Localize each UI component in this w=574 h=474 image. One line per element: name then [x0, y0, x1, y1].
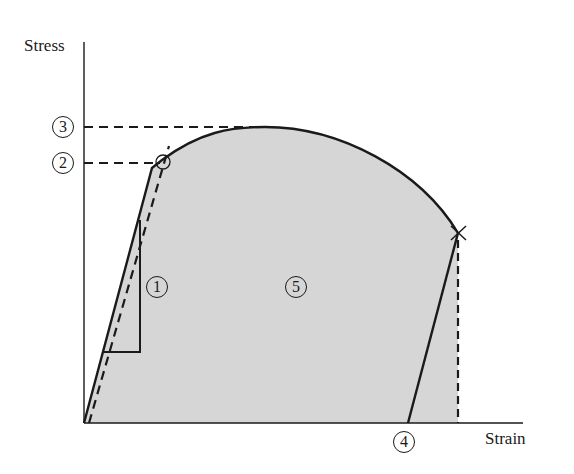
marker-3: 3	[52, 116, 74, 138]
x-axis-label: Strain	[485, 429, 526, 449]
marker-5: 5	[285, 276, 307, 298]
stress-strain-diagram	[0, 0, 574, 474]
marker-2: 2	[52, 152, 74, 174]
marker-4: 4	[393, 431, 415, 453]
y-axis-label: Stress	[24, 36, 65, 56]
marker-1: 1	[146, 276, 168, 298]
